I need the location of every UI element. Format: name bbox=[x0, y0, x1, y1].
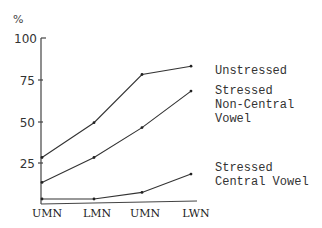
line-chart: % 100 75 50 25 UMN LMN UMN LWN Unstresse… bbox=[0, 0, 322, 228]
data-point bbox=[41, 156, 44, 159]
svg-text:Vowel: Vowel bbox=[215, 112, 251, 126]
data-point bbox=[141, 126, 144, 129]
svg-text:Central Vowel: Central Vowel bbox=[215, 175, 309, 189]
x-tick-lmn: LMN bbox=[83, 207, 112, 220]
svg-text:Unstressed: Unstressed bbox=[215, 64, 287, 78]
legend-stressed-central: Stressed Central Vowel bbox=[215, 161, 309, 189]
data-point bbox=[93, 156, 96, 159]
series-stressed-central bbox=[42, 174, 191, 199]
x-tick-umn-1: UMN bbox=[32, 207, 63, 220]
data-point bbox=[93, 121, 96, 124]
x-axis bbox=[41, 201, 197, 204]
data-point bbox=[190, 65, 193, 68]
y-unit-label: % bbox=[13, 13, 23, 26]
data-point bbox=[41, 181, 44, 184]
series-stressed-noncentral bbox=[42, 91, 191, 182]
x-tick-lwn: LWN bbox=[182, 207, 210, 220]
legend-stressed-noncentral: Stressed Non-Central Vowel bbox=[215, 84, 294, 126]
x-tick-umn-2: UMN bbox=[130, 207, 161, 220]
data-point bbox=[141, 73, 144, 76]
svg-text:Stressed: Stressed bbox=[215, 161, 273, 175]
data-point bbox=[190, 90, 193, 93]
legend-unstressed: Unstressed bbox=[215, 64, 287, 78]
svg-text:Stressed: Stressed bbox=[215, 84, 273, 98]
y-tick-100: 100 bbox=[14, 32, 37, 46]
data-point bbox=[190, 173, 193, 176]
data-point bbox=[93, 198, 96, 201]
svg-text:Non-Central: Non-Central bbox=[215, 98, 294, 112]
x-tick-labels: UMN LMN UMN LWN bbox=[32, 207, 210, 220]
data-point bbox=[41, 198, 44, 201]
y-tick-75: 75 bbox=[20, 74, 35, 88]
data-point bbox=[141, 191, 144, 194]
y-tick-25: 25 bbox=[20, 157, 35, 171]
series-layer bbox=[41, 65, 193, 201]
y-tick-50: 50 bbox=[20, 116, 35, 130]
